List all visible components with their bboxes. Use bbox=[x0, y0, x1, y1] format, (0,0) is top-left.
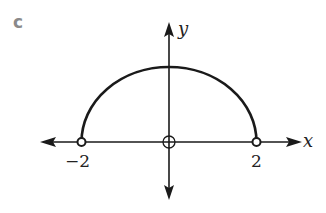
y-axis-label: y bbox=[177, 18, 189, 39]
x-tick-label-neg2: −2 bbox=[65, 151, 90, 171]
open-endpoint-right bbox=[253, 138, 261, 146]
semicircle-graph: −2 2 x y bbox=[0, 0, 326, 213]
open-endpoint-left bbox=[78, 138, 86, 146]
x-tick-label-2: 2 bbox=[251, 151, 262, 171]
x-axis-label: x bbox=[303, 130, 313, 151]
y-axis bbox=[164, 22, 174, 200]
